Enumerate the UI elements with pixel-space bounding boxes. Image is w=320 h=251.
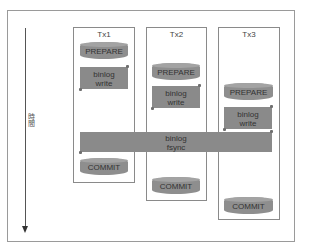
time-axis-label: 時間 (28, 113, 35, 127)
tx1-prepare: PREPARE (80, 42, 128, 59)
tx3-prepare: PREPARE (224, 83, 273, 100)
tx3-binlog-write: binlog write (224, 107, 272, 129)
tx2-title: Tx2 (147, 30, 206, 39)
shared-binlog-fsync: binlog fsync (80, 132, 272, 152)
time-axis (25, 28, 26, 228)
tx2-prepare: PREPARE (152, 63, 200, 80)
arrow-down-icon (22, 226, 28, 233)
tx1-commit: COMMIT (80, 158, 128, 175)
tx2-commit: COMMIT (152, 177, 200, 194)
tx1-title: Tx1 (74, 30, 134, 39)
transaction-tx2: Tx2 (146, 27, 207, 201)
tx3-title: Tx3 (219, 30, 279, 39)
tx1-binlog-write: binlog write (80, 67, 128, 89)
tx3-commit: COMMIT (224, 197, 273, 214)
tx2-binlog-write: binlog write (152, 86, 200, 108)
